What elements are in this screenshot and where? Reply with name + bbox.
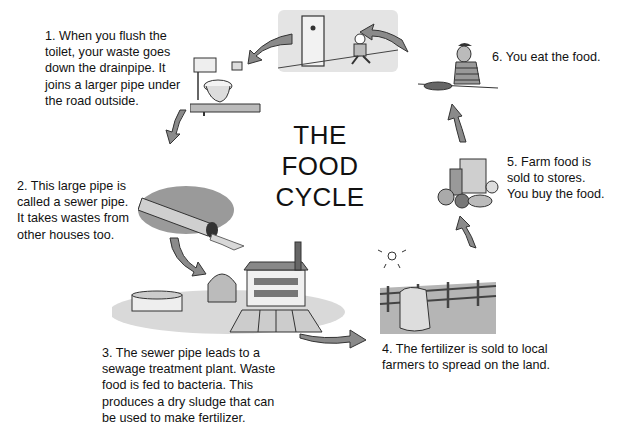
cycle-arrows	[0, 0, 624, 422]
arrow-icon	[170, 238, 206, 276]
arrow-icon	[166, 110, 186, 144]
arrow-icon	[448, 104, 466, 142]
arrow-icon	[300, 330, 366, 348]
arrow-icon	[248, 34, 292, 64]
arrow-icon	[456, 216, 476, 248]
arrow-icon	[360, 24, 408, 52]
